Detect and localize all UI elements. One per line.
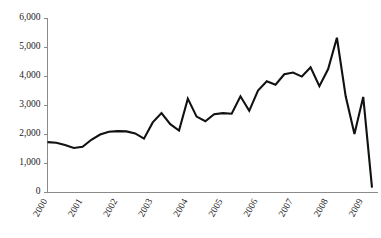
chart-canvas: 01,0002,0003,0004,0005,0006,000 20002001…: [0, 0, 381, 238]
x-tick-label: 2007: [277, 197, 295, 219]
y-axis-tick-labels: 01,0002,0003,0004,0005,0006,000: [19, 12, 41, 196]
x-tick-label: 2001: [66, 197, 84, 219]
x-axis-tick-labels: 2000200120022003200420052006200720082009: [31, 197, 365, 219]
x-tick-label: 2006: [242, 197, 260, 219]
x-tick-label: 2009: [347, 197, 365, 219]
y-tick-label: 0: [36, 186, 41, 196]
x-tick-label: 2002: [101, 197, 119, 219]
y-axis-tick-marks: [44, 19, 48, 193]
x-tick-label: 2005: [206, 197, 224, 219]
y-tick-label: 3,000: [19, 99, 41, 109]
x-tick-label: 2004: [171, 197, 189, 219]
y-tick-label: 1,000: [19, 157, 41, 167]
y-tick-label: 6,000: [19, 12, 41, 22]
line-chart: 01,0002,0003,0004,0005,0006,000 20002001…: [0, 0, 381, 238]
y-tick-label: 2,000: [19, 128, 41, 138]
x-tick-label: 2003: [136, 197, 154, 219]
data-series-line: [48, 38, 373, 188]
x-tick-label: 2008: [312, 197, 330, 219]
y-tick-label: 5,000: [19, 41, 41, 51]
y-tick-label: 4,000: [19, 70, 41, 80]
x-tick-label: 2000: [31, 197, 49, 219]
